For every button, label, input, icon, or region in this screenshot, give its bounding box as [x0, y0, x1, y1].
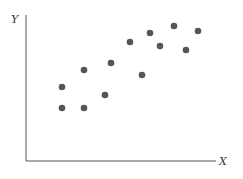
data-point: [102, 92, 109, 99]
data-point: [147, 30, 154, 37]
x-axis-label: X: [218, 155, 228, 168]
data-point: [81, 105, 88, 112]
data-point: [59, 84, 66, 91]
data-point: [127, 39, 134, 46]
data-point: [183, 47, 190, 54]
data-point: [108, 60, 115, 67]
data-point: [157, 43, 164, 50]
y-axis-label: Y: [11, 13, 20, 26]
data-point: [81, 67, 88, 74]
data-point: [171, 23, 178, 30]
scatter-chart: Y X: [0, 0, 243, 179]
data-point: [139, 72, 146, 79]
data-point: [195, 28, 202, 35]
data-points: [59, 23, 202, 112]
data-point: [59, 105, 66, 112]
